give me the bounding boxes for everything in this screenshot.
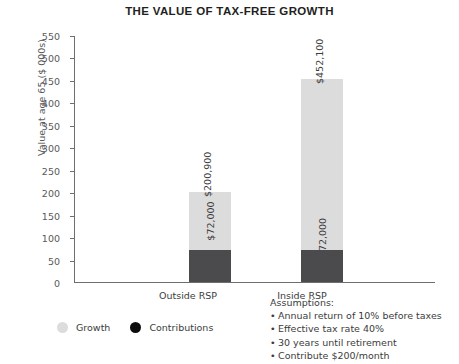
y-axis-tick xyxy=(70,81,74,82)
chart-title: THE VALUE OF TAX-FREE GROWTH xyxy=(0,5,459,17)
bar-total-label: $452,100 xyxy=(314,39,325,84)
x-axis-line xyxy=(74,282,435,283)
assumption-text: 30 years until retirement xyxy=(278,337,397,348)
y-tick-label: 100 xyxy=(42,233,60,244)
assumption-item: •Contribute $200/month xyxy=(270,349,442,362)
y-axis-tick xyxy=(70,58,74,59)
bar-outside-rsp[interactable]: $72,000 $200,900 xyxy=(189,192,231,282)
y-axis-tick xyxy=(70,171,74,172)
y-axis-line xyxy=(74,36,75,283)
assumptions-block: Assumptions: •Annual return of 10% befor… xyxy=(270,296,442,362)
y-axis-tick xyxy=(70,261,74,262)
y-tick-label: 150 xyxy=(42,210,60,221)
y-axis-tick xyxy=(70,216,74,217)
bar-segment-contributions[interactable] xyxy=(189,250,231,282)
y-axis-tick xyxy=(70,193,74,194)
bullet-icon: • xyxy=(270,309,278,322)
assumption-item: •30 years until retirement xyxy=(270,336,442,349)
y-tick-label: 0 xyxy=(54,278,60,289)
y-axis-tick xyxy=(70,36,74,37)
plot-area: $72,000 $200,900 $72,000 $452,100 xyxy=(74,36,435,283)
assumption-item: •Effective tax rate 40% xyxy=(270,322,442,335)
bar-inside-rsp[interactable]: $72,000 $452,100 xyxy=(301,79,343,282)
legend-item-contributions[interactable]: Contributions xyxy=(130,322,213,333)
legend-label-contributions: Contributions xyxy=(149,322,213,333)
y-tick-label: 50 xyxy=(48,255,60,266)
y-axis-tick-labels: 550 500 450 400 350 300 250 200 150 100 … xyxy=(0,36,68,283)
y-axis-title: Value at age 65 ($ 000s) xyxy=(36,13,47,183)
y-axis-tick xyxy=(70,103,74,104)
bar-segment-growth-label: $72,000 xyxy=(205,201,216,240)
y-axis-tick xyxy=(70,126,74,127)
legend-label-growth: Growth xyxy=(76,322,110,333)
legend-swatch-growth-icon xyxy=(57,322,68,333)
assumptions-title: Assumptions: xyxy=(270,296,442,309)
bar-segment-growth[interactable]: $72,000 xyxy=(301,79,343,250)
bullet-icon: • xyxy=(270,349,278,362)
y-tick-label: 200 xyxy=(42,188,60,199)
chart-legend: Growth Contributions xyxy=(57,322,213,333)
x-axis-category-label: Outside RSP xyxy=(148,290,228,301)
bullet-icon: • xyxy=(270,322,278,335)
bar-segment-growth[interactable]: $72,000 xyxy=(189,192,231,250)
bar-segment-contributions[interactable] xyxy=(301,250,343,282)
y-axis-tick xyxy=(70,148,74,149)
bar-total-label: $200,900 xyxy=(202,152,213,197)
legend-swatch-contributions-icon xyxy=(130,322,141,333)
assumption-text: Contribute $200/month xyxy=(278,350,390,361)
chart-root: THE VALUE OF TAX-FREE GROWTH 550 500 450… xyxy=(0,0,459,364)
assumption-text: Annual return of 10% before taxes xyxy=(278,310,442,321)
assumption-text: Effective tax rate 40% xyxy=(278,323,384,334)
y-axis-tick xyxy=(70,238,74,239)
legend-item-growth[interactable]: Growth xyxy=(57,322,110,333)
bullet-icon: • xyxy=(270,336,278,349)
assumption-item: •Annual return of 10% before taxes xyxy=(270,309,442,322)
